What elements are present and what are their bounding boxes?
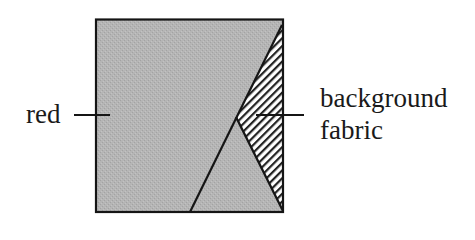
label-background-fabric: background fabric [320,82,447,146]
label-red: red [26,98,60,130]
label-background-line2: fabric [320,114,447,146]
label-background-line1: background [320,82,447,114]
